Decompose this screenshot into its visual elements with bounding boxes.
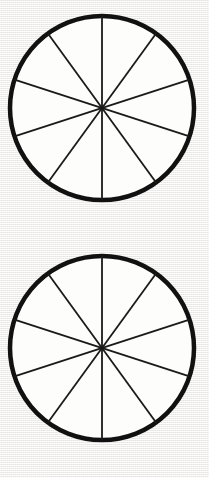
fraction-circle-2[interactable]	[0, 240, 209, 460]
fraction-circle-1[interactable]	[0, 0, 209, 220]
fraction-circle-1-svg	[0, 0, 209, 220]
worksheet-canvas	[0, 0, 209, 478]
fraction-circle-2-svg	[0, 240, 209, 460]
